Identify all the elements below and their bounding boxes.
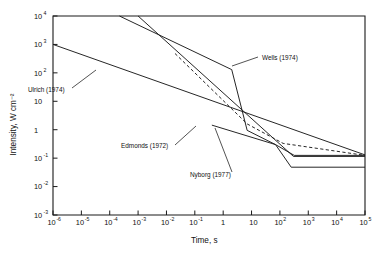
svg-text:10: 10 <box>133 218 141 227</box>
svg-text:-2: -2 <box>170 216 175 222</box>
y-axis-tick-labels: 10410310210110-110-210-3 <box>34 10 48 220</box>
y-tick-label: 10-2 <box>34 180 48 191</box>
svg-text:-3: -3 <box>141 216 146 222</box>
x-tick-label: 1 <box>221 218 225 227</box>
x-tick-label: 10-2 <box>161 216 175 227</box>
data-series-group <box>53 16 365 167</box>
svg-text:3: 3 <box>44 38 47 44</box>
svg-text:4: 4 <box>44 10 47 16</box>
svg-text:-1: -1 <box>198 216 203 222</box>
svg-text:10: 10 <box>34 211 42 220</box>
y-tick-label: 10-3 <box>34 209 48 220</box>
series-line <box>212 125 365 155</box>
x-tick-label: 102 <box>274 216 286 227</box>
svg-text:10: 10 <box>274 218 282 227</box>
x-tick-label: 10-6 <box>48 216 62 227</box>
svg-text:10: 10 <box>331 218 339 227</box>
svg-text:10: 10 <box>303 218 311 227</box>
svg-text:10: 10 <box>189 218 197 227</box>
chart-canvas: 10-610-510-410-310-210-1110102103104105 … <box>0 0 384 262</box>
svg-text:-3: -3 <box>44 209 49 215</box>
svg-text:2: 2 <box>44 67 47 73</box>
y-axis-title: Intensity, W cm⁻² <box>9 93 18 155</box>
series-annotation: Wells (1974) <box>262 54 298 62</box>
svg-text:2: 2 <box>283 216 286 222</box>
series-annotation: Ulrich (1974) <box>28 86 65 94</box>
x-tick-label: 10-4 <box>104 216 118 227</box>
y-tick-label: 10-1 <box>34 152 48 163</box>
svg-text:5: 5 <box>368 216 371 222</box>
x-axis-ticks <box>53 211 365 216</box>
svg-text:10: 10 <box>161 218 169 227</box>
x-tick-label: 10-1 <box>189 216 203 227</box>
x-tick-label: 104 <box>331 216 343 227</box>
svg-text:10: 10 <box>34 69 42 78</box>
svg-text:10: 10 <box>249 218 257 227</box>
svg-text:10: 10 <box>48 218 56 227</box>
y-tick-label: 1 <box>34 126 38 135</box>
y-tick-label: 104 <box>34 10 47 21</box>
svg-text:10: 10 <box>34 97 42 106</box>
svg-text:-2: -2 <box>44 180 49 186</box>
series-line <box>53 44 365 154</box>
svg-text:-6: -6 <box>56 216 61 222</box>
svg-text:10: 10 <box>76 218 84 227</box>
x-tick-label: 105 <box>360 216 372 227</box>
axes-frame <box>53 16 365 215</box>
svg-text:-5: -5 <box>85 216 90 222</box>
annotation-leader-lines <box>72 57 258 172</box>
figure-container: 10-610-510-410-310-210-1110102103104105 … <box>0 0 384 262</box>
y-tick-label: 10 <box>34 97 42 106</box>
series-line <box>175 53 365 155</box>
series-annotation: Nyborg (1977) <box>190 171 231 179</box>
x-axis-title: Time, s <box>191 236 218 245</box>
x-tick-label: 103 <box>303 216 315 227</box>
x-tick-label: 10-3 <box>133 216 147 227</box>
svg-text:10: 10 <box>104 218 112 227</box>
x-axis-tick-labels: 10-610-510-410-310-210-1110102103104105 <box>48 216 372 227</box>
svg-text:10: 10 <box>34 12 42 21</box>
svg-text:10: 10 <box>34 182 42 191</box>
svg-text:1: 1 <box>221 218 225 227</box>
y-tick-label: 102 <box>34 67 47 78</box>
svg-text:3: 3 <box>312 216 315 222</box>
svg-text:-4: -4 <box>113 216 118 222</box>
series-annotation: Edmonds (1972) <box>121 142 168 150</box>
svg-text:4: 4 <box>340 216 343 222</box>
x-tick-label: 10-5 <box>76 216 90 227</box>
svg-text:10: 10 <box>360 218 368 227</box>
x-tick-label: 10 <box>249 218 257 227</box>
svg-text:10: 10 <box>34 154 42 163</box>
y-tick-label: 103 <box>34 38 47 49</box>
svg-text:-1: -1 <box>44 152 49 158</box>
svg-text:10: 10 <box>34 40 42 49</box>
svg-text:1: 1 <box>34 126 38 135</box>
